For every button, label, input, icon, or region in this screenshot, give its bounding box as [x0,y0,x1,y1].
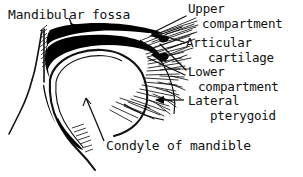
label-articular-cartilage-line2: cartilage [208,52,274,65]
label-articular-cartilage: Articular cartilage [186,37,252,62]
label-articular-cartilage-line1: Articular [186,37,252,50]
label-lower-compartment-line2: compartment [198,81,279,94]
label-upper-compartment-line1: Upper [188,3,269,16]
label-lateral-pterygoid: Lateral pterygoid [188,95,254,120]
temporal-bone-outline [9,29,44,134]
anatomy-figure: Mandibular fossa Upper compartment Artic… [0,0,303,177]
label-upper-compartment-line2: compartment [202,18,283,31]
label-condyle-of-mandible: Condyle of mandible [106,139,251,152]
label-lateral-pterygoid-line2: pterygoid [210,110,276,123]
label-lower-compartment-line1: Lower [188,66,269,79]
label-mandibular-fossa: Mandibular fossa [8,8,130,21]
label-upper-compartment: Upper compartment [188,3,269,28]
label-lateral-pterygoid-line1: Lateral [188,95,254,108]
leader-condyle [83,98,104,141]
label-lower-compartment: Lower compartment [188,66,269,91]
